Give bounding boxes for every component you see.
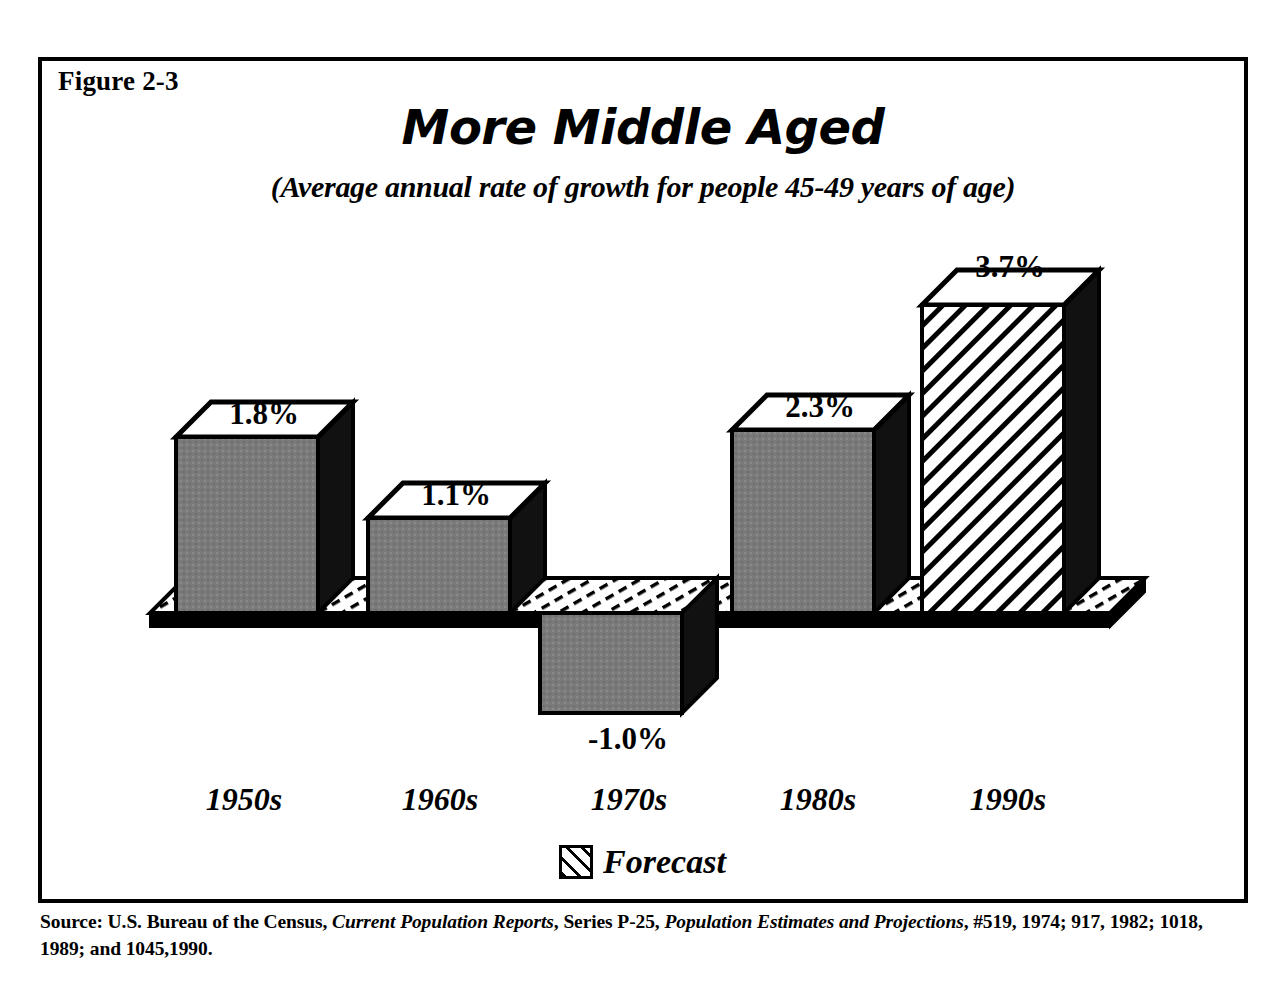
source-italic-publication-1: Current Population Reports: [332, 911, 554, 932]
value-label-1960s: 1.1%: [421, 477, 491, 513]
category-label-1960s: 1960s: [402, 781, 478, 818]
source-note: Source: U.S. Bureau of the Census, Curre…: [40, 909, 1230, 963]
legend-label-forecast: Forecast: [603, 845, 726, 879]
value-label-1990s: 3.7%: [975, 249, 1045, 285]
category-label-1970s: 1970s: [591, 781, 667, 818]
chart-title: More Middle Aged: [38, 99, 1248, 155]
value-label-1970s: -1.0%: [588, 721, 668, 757]
source-italic-publication-2: Population Estimates and Projections: [664, 911, 963, 932]
category-label-1990s: 1990s: [970, 781, 1046, 818]
source-mid: , Series P-25,: [554, 911, 665, 932]
category-label-1980s: 1980s: [780, 781, 856, 818]
source-prefix: Source: U.S. Bureau of the Census,: [40, 911, 332, 932]
forecast-hatch-swatch-icon: [559, 845, 593, 879]
value-label-1980s: 2.3%: [785, 389, 855, 425]
category-axis: 1950s 1960s 1970s 1980s 1990s: [0, 781, 1285, 821]
category-label-1950s: 1950s: [206, 781, 282, 818]
figure-number: Figure 2-3: [58, 66, 179, 97]
chart-legend: Forecast: [0, 845, 1285, 879]
chart-subtitle: (Average annual rate of growth for peopl…: [38, 170, 1248, 204]
value-label-1950s: 1.8%: [229, 396, 299, 432]
